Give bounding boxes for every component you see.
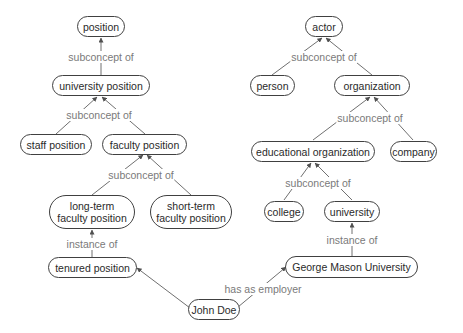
node-educational-organization[interactable]: educational organization xyxy=(251,141,375,162)
node-university[interactable]: university xyxy=(324,201,380,222)
edge-label-instance-of: instance of xyxy=(326,234,379,246)
edge-label-instance-of: instance of xyxy=(66,238,119,250)
node-george-mason-university[interactable]: George Mason University xyxy=(285,256,418,278)
edge-label-has-as-employer: has as employer xyxy=(223,283,302,295)
node-person[interactable]: person xyxy=(250,75,295,96)
edge-label-subconcept-of: subconcept of xyxy=(284,177,351,189)
node-position[interactable]: position xyxy=(77,16,125,37)
node-tenured-position[interactable]: tenured position xyxy=(48,257,137,278)
node-faculty-position[interactable]: faculty position xyxy=(102,134,187,155)
node-staff-position[interactable]: staff position xyxy=(20,134,92,155)
edge-label-subconcept-of: subconcept of xyxy=(336,112,403,124)
edge-label-subconcept-of: subconcept of xyxy=(65,109,132,121)
node-company[interactable]: company xyxy=(390,141,437,162)
edge-label-subconcept-of: subconcept of xyxy=(107,169,174,181)
node-college[interactable]: college xyxy=(264,201,304,222)
node-john-doe[interactable]: John Doe xyxy=(188,299,240,320)
edge-label-subconcept-of: subconcept of xyxy=(290,51,357,63)
node-actor[interactable]: actor xyxy=(305,16,343,37)
node-organization[interactable]: organization xyxy=(334,75,410,96)
edge-label-subconcept-of: subconcept of xyxy=(67,51,134,63)
node-long-term-faculty-position[interactable]: long-term faculty position xyxy=(49,195,135,229)
node-short-term-faculty-position[interactable]: short-term faculty position xyxy=(150,195,232,229)
node-university-position[interactable]: university position xyxy=(52,75,150,96)
edge-john-to-tenured xyxy=(137,268,190,308)
